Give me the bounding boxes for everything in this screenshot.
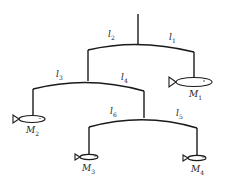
label-l4: l4: [121, 73, 128, 84]
label-l6: l6: [110, 107, 117, 118]
label-m3: M3: [82, 164, 95, 175]
fish-icon-m3: [75, 154, 98, 160]
label-m4: M4: [191, 165, 204, 176]
fish-icon-m4: [183, 155, 206, 161]
label-l5: l5: [176, 109, 183, 120]
top-arm: [88, 44, 194, 52]
label-m2: M2: [26, 126, 39, 137]
label-l2: l2: [108, 30, 115, 41]
fish-icon-m2: [13, 115, 45, 123]
label-l3: l3: [56, 70, 63, 81]
label-l1: l1: [169, 33, 176, 44]
fish-icon-m1: [169, 77, 212, 87]
label-m1: M1: [189, 90, 202, 101]
bottom-arm: [89, 120, 197, 128]
